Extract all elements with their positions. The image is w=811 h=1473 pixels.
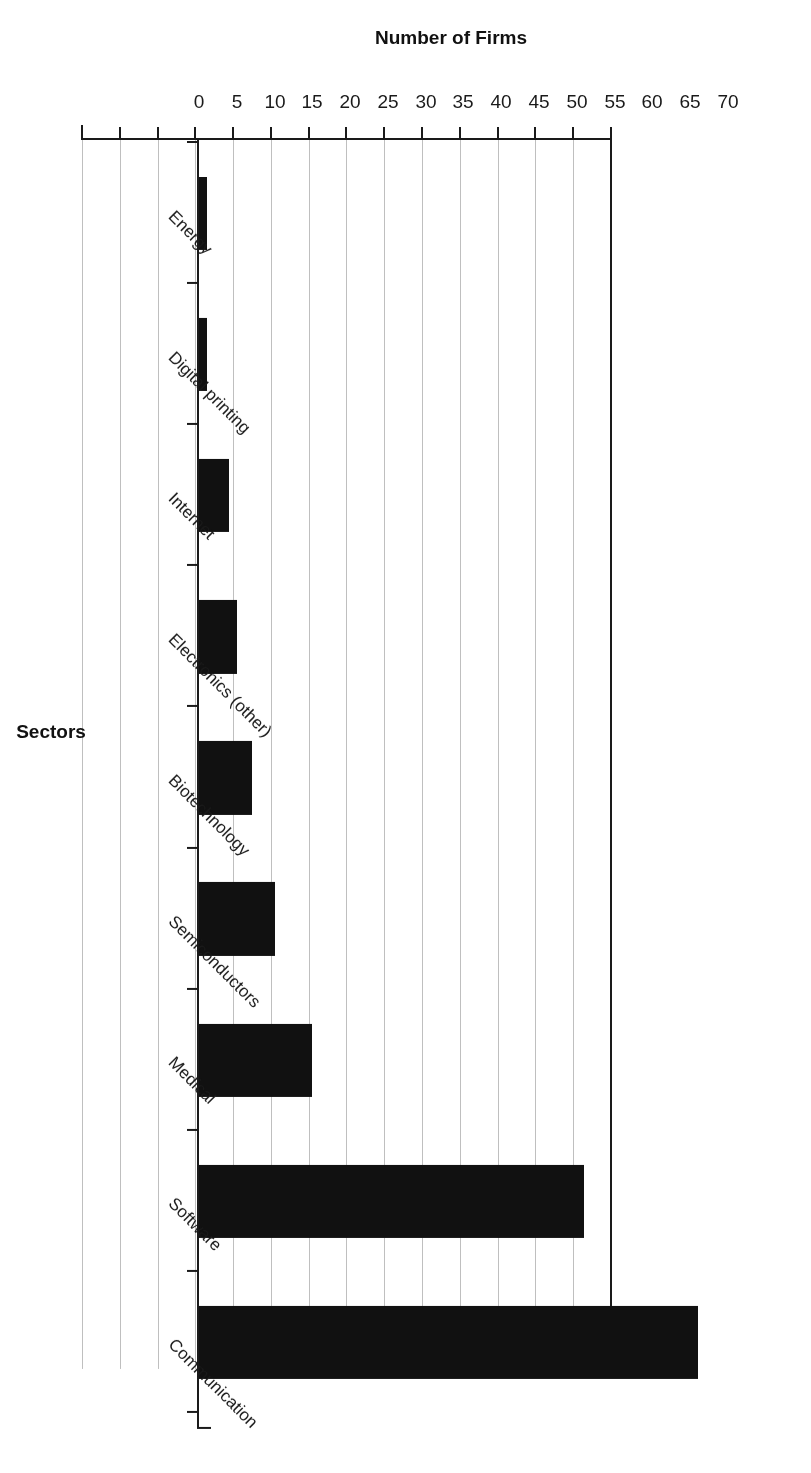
- chart-figure: 0510152025303540455055606570 Communicati…: [0, 0, 811, 1473]
- bar: [199, 1024, 312, 1097]
- category-axis-tick: [187, 423, 198, 425]
- category-axis-title: Sectors: [0, 721, 111, 743]
- category-axis-tick: [187, 1129, 198, 1131]
- category-axis-tick: [187, 705, 198, 707]
- chart-plot-area: 0510152025303540455055606570 Communicati…: [0, 0, 811, 1473]
- value-axis-tick-labels: 0510152025303540455055606570: [0, 0, 811, 1473]
- value-axis-tick-label: 70: [705, 91, 751, 113]
- category-axis-tick: [187, 1270, 198, 1272]
- value-axis-title: Number of Firms: [301, 27, 601, 49]
- category-axis-tick: [187, 1411, 198, 1413]
- category-axis-tick: [187, 847, 198, 849]
- category-axis-tick: [187, 988, 198, 990]
- bar: [199, 1165, 584, 1238]
- category-axis-tick: [187, 141, 198, 143]
- category-axis-tick: [187, 282, 198, 284]
- category-axis-tick: [187, 564, 198, 566]
- bar: [199, 1306, 698, 1379]
